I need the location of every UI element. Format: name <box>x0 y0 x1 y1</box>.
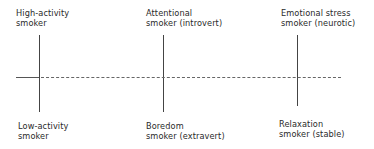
label-line: High-activity <box>16 8 69 18</box>
label-line: Attentional <box>146 8 222 18</box>
axis-line-neuroticism <box>297 35 298 106</box>
label-line: smoker (stable) <box>279 129 345 139</box>
label-emotional-stress: Emotional stress smoker (neurotic) <box>281 8 355 28</box>
label-line: Relaxation <box>279 119 345 129</box>
label-line: Emotional stress <box>281 8 355 18</box>
label-low-activity: Low-activity smoker <box>18 121 68 141</box>
baseline-dashed <box>41 77 341 78</box>
baseline-solid <box>16 77 39 78</box>
label-attentional: Attentional smoker (introvert) <box>146 8 222 28</box>
label-line: Low-activity <box>18 121 68 131</box>
axis-line-introversion <box>163 35 164 112</box>
label-line: Boredom <box>146 121 225 131</box>
axis-line-activity <box>39 35 40 112</box>
label-line: smoker (extravert) <box>146 131 225 141</box>
label-line: smoker (neurotic) <box>281 18 355 28</box>
label-line: smoker <box>16 18 69 28</box>
label-line: smoker <box>18 131 68 141</box>
label-high-activity: High-activity smoker <box>16 8 69 28</box>
label-line: smoker (introvert) <box>146 18 222 28</box>
label-relaxation: Relaxation smoker (stable) <box>279 119 345 139</box>
label-boredom: Boredom smoker (extravert) <box>146 121 225 141</box>
